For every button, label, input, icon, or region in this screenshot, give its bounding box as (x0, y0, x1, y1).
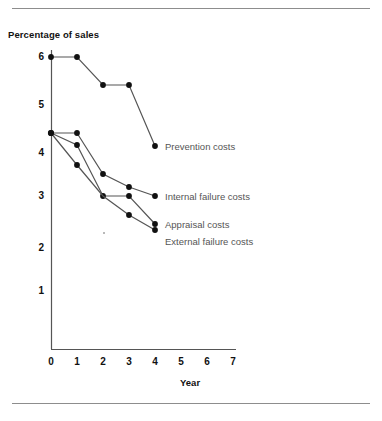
y-tick-3: 3 (30, 190, 44, 201)
x-tick-6: 6 (200, 356, 214, 367)
series-line-external-failure-costs (51, 133, 158, 233)
y-tick-5: 5 (30, 99, 44, 110)
series-line-prevention-costs (48, 54, 158, 149)
series-label-prevention-costs: Prevention costs (165, 141, 235, 152)
y-tick-2: 2 (30, 242, 44, 253)
x-tick-5: 5 (174, 356, 188, 367)
series-label-external-failure-costs: External failure costs (165, 236, 253, 247)
x-tick-0: 0 (44, 356, 58, 367)
x-axis-title: Year (180, 377, 200, 388)
series-line-appraisal-costs (51, 133, 158, 227)
y-tick-4: 4 (30, 147, 44, 158)
x-tick-4: 4 (148, 356, 162, 367)
x-tick-2: 2 (96, 356, 110, 367)
series-label-internal-failure-costs: Internal failure costs (165, 191, 250, 202)
series-line-internal-failure-costs (48, 130, 158, 199)
x-tick-1: 1 (70, 356, 84, 367)
y-tick-6: 6 (30, 51, 44, 62)
origin-marker (48, 130, 54, 136)
y-tick-1: 1 (30, 285, 44, 296)
series-label-appraisal-costs: Appraisal costs (165, 219, 229, 230)
x-tick-3: 3 (122, 356, 136, 367)
chart-page: Percentage of sales (0, 0, 382, 421)
x-tick-7: 7 (226, 356, 240, 367)
scan-artifact-speck (103, 232, 105, 234)
